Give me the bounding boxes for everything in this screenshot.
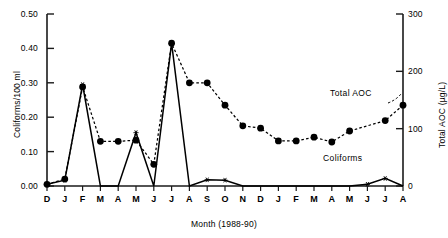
annotation-leader-line	[388, 94, 401, 103]
series-line-coliforms	[47, 43, 403, 186]
x-tick-label-j-7: J	[163, 194, 181, 204]
data-point-total-aoc	[115, 138, 122, 145]
x-tick-label-m-15: M	[305, 194, 323, 204]
x-tick-label-m-5: M	[127, 194, 145, 204]
x-tick-label-a-20: A	[394, 194, 412, 204]
data-point-coliforms	[383, 176, 388, 181]
data-point-total-aoc	[239, 122, 246, 129]
x-tick-label-j-19: J	[376, 194, 394, 204]
data-point-coliforms	[222, 178, 227, 183]
y-tick-label-left: 0.40	[4, 43, 38, 53]
x-tick-label-j-6: J	[145, 194, 163, 204]
x-tick-label-j-13: J	[269, 194, 287, 204]
data-point-total-aoc	[44, 181, 51, 188]
x-tick-label-o-10: O	[216, 194, 234, 204]
x-tick-label-s-9: S	[198, 194, 216, 204]
data-point-total-aoc	[382, 117, 389, 124]
x-tick-label-d-0: D	[38, 194, 56, 204]
x-tick-label-f-2: F	[74, 194, 92, 204]
series-label-total-aoc: Total AOC	[330, 88, 372, 98]
y-axis-ticks-right	[396, 14, 403, 186]
y-axis-title-right: Total AOC (µg/L)	[437, 82, 447, 148]
y-tick-label-left: 0.10	[4, 147, 38, 157]
data-point-total-aoc	[346, 128, 353, 135]
x-tick-label-a-16: A	[323, 194, 341, 204]
x-tick-label-m-17: M	[341, 194, 359, 204]
y-tick-label-right: 200	[408, 66, 448, 76]
data-point-total-aoc	[204, 79, 211, 86]
x-tick-label-a-4: A	[109, 194, 127, 204]
series-markers-total-aoc	[44, 40, 407, 188]
data-point-total-aoc	[275, 138, 282, 145]
y-tick-label-left: 0.00	[4, 181, 38, 191]
data-point-total-aoc	[186, 79, 193, 86]
data-point-total-aoc	[222, 102, 229, 109]
data-point-total-aoc	[168, 40, 175, 47]
data-point-total-aoc	[150, 161, 157, 168]
x-tick-label-f-14: F	[287, 194, 305, 204]
data-point-total-aoc	[328, 139, 335, 146]
y-tick-label-left: 0.50	[4, 9, 38, 19]
x-tick-label-a-8: A	[180, 194, 198, 204]
data-point-total-aoc	[133, 137, 140, 144]
x-tick-label-d-12: D	[252, 194, 270, 204]
data-point-total-aoc	[79, 84, 86, 91]
x-tick-label-j-1: J	[56, 194, 74, 204]
y-tick-label-right: 0	[408, 181, 448, 191]
series-label-coliforms: Coliforms	[323, 153, 363, 163]
y-tick-label-right: 300	[408, 9, 448, 19]
data-point-total-aoc	[257, 125, 264, 132]
x-axis-title: Month (1988-90)	[0, 219, 448, 229]
y-axis-title-left: Coliforms/100 ml	[12, 71, 22, 138]
data-point-coliforms	[205, 178, 210, 183]
y-axis-ticks-left	[47, 14, 54, 186]
x-tick-label-j-18: J	[358, 194, 376, 204]
series-line-total-aoc	[47, 43, 403, 184]
x-tick-label-m-3: M	[91, 194, 109, 204]
data-point-total-aoc	[97, 138, 104, 145]
x-tick-label-n-11: N	[234, 194, 252, 204]
figure: 0.000.100.200.300.400.50 0100200300 DJFM…	[0, 0, 448, 238]
data-point-total-aoc	[311, 134, 318, 141]
data-point-total-aoc	[400, 102, 407, 109]
data-point-total-aoc	[293, 138, 300, 145]
data-point-total-aoc	[61, 176, 68, 183]
